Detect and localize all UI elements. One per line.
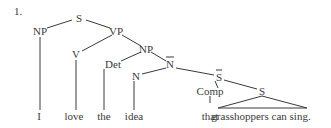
tree-branch (82, 35, 112, 51)
clause-triangle (218, 96, 307, 108)
leaf-clause: grasshoppers can sing. (211, 111, 310, 122)
node-np-subject: NP (33, 26, 47, 37)
tree-branch (151, 52, 166, 61)
leaf-i: I (37, 111, 41, 122)
node-n-bar: N (166, 59, 174, 70)
node-s-inner: S (259, 86, 265, 97)
node-np-object: NP (139, 44, 153, 55)
syntax-tree-diagram: 1. S NP VP V NP Det N N S Comp S I love … (0, 0, 331, 128)
node-s: S (76, 13, 82, 24)
leaf-the: the (97, 111, 110, 122)
tree-branch (142, 68, 166, 74)
node-v: V (72, 49, 80, 60)
node-vp: VP (109, 26, 123, 37)
tree-branch (176, 68, 214, 75)
node-s-bar: S (216, 72, 222, 83)
leaf-love: love (65, 111, 84, 122)
tree-branch (47, 20, 72, 28)
tree-branch (86, 20, 110, 28)
node-comp: Comp (197, 86, 224, 97)
node-n: N (132, 71, 140, 82)
tree-branch (224, 80, 257, 89)
leaf-idea: idea (125, 111, 143, 122)
node-det: Det (105, 59, 121, 70)
